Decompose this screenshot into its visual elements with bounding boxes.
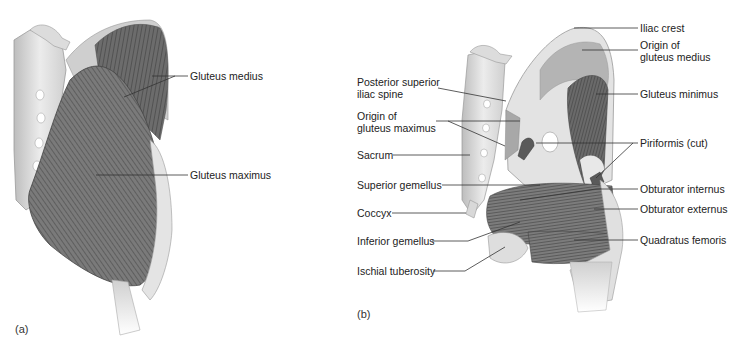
- label-gluteus-minimus: Gluteus minimus: [640, 88, 718, 100]
- label-gluteus-medius: Gluteus medius: [190, 70, 263, 82]
- label-obturator-externus: Obturator externus: [640, 203, 728, 215]
- label-piriformis-cut: Piriformis (cut): [640, 137, 708, 149]
- gluteal-muscles-figure: Gluteus medius Gluteus maximus (a) Poste…: [0, 0, 733, 347]
- panel-tag-a: (a): [15, 323, 28, 335]
- label-gluteus-maximus: Gluteus maximus: [190, 169, 271, 181]
- label-posterior-superior-iliac-spine: Posterior superior iliac spine: [357, 76, 440, 100]
- label-obturator-internus: Obturator internus: [640, 183, 725, 195]
- label-iliac-crest: Iliac crest: [640, 22, 684, 34]
- label-coccyx: Coccyx: [357, 207, 391, 219]
- panel-a-illustration: [14, 20, 188, 335]
- label-inferior-gemellus: Inferior gemellus: [357, 235, 435, 247]
- label-origin-of-gluteus-medius: Origin of gluteus medius: [640, 39, 711, 63]
- anatomy-illustration: [0, 0, 733, 347]
- label-sacrum: Sacrum: [357, 149, 393, 161]
- label-ischial-tuberosity: Ischial tuberosity: [357, 265, 435, 277]
- label-origin-of-gluteus-maximus: Origin of gluteus maximus: [357, 110, 436, 134]
- label-quadratus-femoris: Quadratus femoris: [640, 234, 726, 246]
- label-superior-gemellus: Superior gemellus: [357, 179, 442, 191]
- panel-tag-b: (b): [357, 308, 370, 320]
